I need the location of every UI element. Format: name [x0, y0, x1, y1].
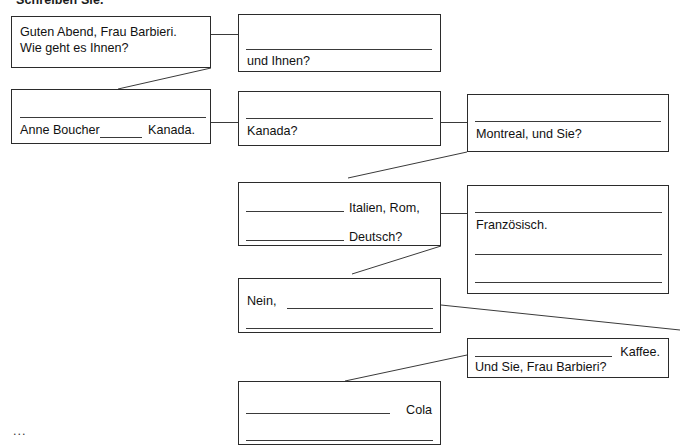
und-ihnen-label: und Ihnen? [247, 54, 310, 69]
kanada-label: Kanada? [247, 124, 297, 139]
wire-italien-to-nein [352, 246, 441, 274]
speech-box-und-ihnen: und Ihnen? [238, 14, 441, 72]
trailing-ellipsis: ... [13, 424, 27, 438]
anne-before-label: Anne Boucher [20, 123, 100, 138]
speech-box-greeting: Guten Abend, Frau Barbieri. Wie geht es … [11, 16, 211, 68]
kaffee-label: Kaffee. [620, 345, 660, 360]
italien-rom-label: Italien, Rom, [349, 201, 420, 216]
speech-box-cola: Cola [238, 381, 441, 445]
cola-label: Cola [406, 403, 432, 418]
deutsch-label: Deutsch? [349, 230, 402, 245]
franzoesisch-label: Französisch. [476, 218, 547, 233]
exercise-page: Schreiben Sie. Guten Abend, Frau Barbier… [0, 0, 680, 448]
greeting-line-1: Guten Abend, Frau Barbieri. [20, 25, 177, 40]
blank-line-anne-top[interactable] [20, 117, 206, 118]
speech-box-italien-rom-deutsch: Italien, Rom, Deutsch? [238, 182, 441, 246]
blank-line-nein-1[interactable] [287, 308, 433, 309]
blank-line-anne-inline[interactable] [100, 137, 142, 138]
blank-line-franzoesisch-2[interactable] [475, 254, 662, 255]
wire-nein-to-kaffee [441, 305, 680, 330]
anne-after-label: Kanada. [148, 123, 195, 138]
blank-line-deutsch[interactable] [246, 240, 344, 241]
greeting-line-2: Wie geht es Ihnen? [20, 41, 129, 56]
nein-label: Nein, [247, 294, 276, 309]
wire-montreal-to-italien [348, 152, 467, 178]
blank-line-italien[interactable] [246, 211, 344, 212]
blank-line-und-ihnen[interactable] [246, 49, 432, 50]
speech-box-franzoesisch: Französisch. [467, 185, 669, 294]
page-instruction: Schreiben Sie. [16, 0, 104, 7]
blank-line-kaffee[interactable] [475, 356, 612, 357]
blank-line-nein-2[interactable] [246, 328, 433, 329]
montreal-label: Montreal, und Sie? [476, 127, 582, 142]
speech-box-kanada: Kanada? [238, 91, 441, 146]
und-sie-frau-barbieri-label: Und Sie, Frau Barbieri? [475, 360, 607, 375]
blank-line-montreal[interactable] [475, 121, 661, 122]
blank-line-franzoesisch-1[interactable] [475, 212, 662, 213]
blank-line-kanada[interactable] [246, 118, 433, 119]
blank-line-franzoesisch-3[interactable] [475, 282, 662, 283]
blank-line-cola-1[interactable] [246, 413, 390, 414]
blank-line-cola-2[interactable] [246, 440, 433, 441]
wire-kaffee-to-cola [345, 355, 467, 381]
wire-greeting-to-anne [118, 68, 211, 89]
speech-box-kaffee: Kaffee. Und Sie, Frau Barbieri? [467, 338, 669, 378]
speech-box-montreal: Montreal, und Sie? [467, 94, 669, 152]
speech-box-nein: Nein, [238, 278, 441, 333]
speech-box-anne-boucher: Anne Boucher Kanada. [11, 89, 211, 144]
